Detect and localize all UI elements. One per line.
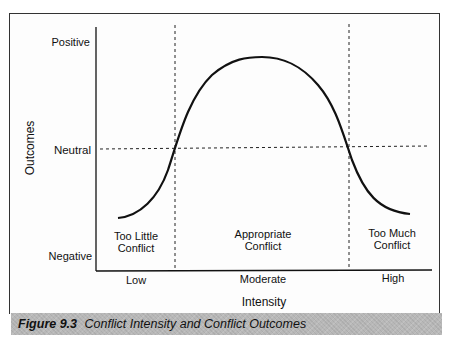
- region-too-little-line1: Too Little: [114, 230, 158, 242]
- y-tick-neutral: Neutral: [54, 144, 91, 156]
- y-axis-label: Outcomes: [23, 121, 37, 176]
- y-tick-positive: Positive: [51, 36, 90, 48]
- region-appropriate-line1: Appropriate: [235, 228, 292, 240]
- outcome-curve: [118, 57, 410, 218]
- x-axis-label: Intensity: [242, 295, 287, 309]
- x-tick-low: Low: [126, 274, 146, 286]
- figure-number: Figure 9.3: [18, 317, 77, 331]
- region-too-much-line1: Too Much: [368, 227, 416, 239]
- figure-title: Conflict Intensity and Conflict Outcomes: [85, 317, 307, 331]
- x-axis: [96, 270, 432, 271]
- figure-caption: Figure 9.3 Conflict Intensity and Confli…: [18, 317, 306, 331]
- x-tick-high: High: [382, 272, 405, 284]
- chart-canvas: Positive Neutral Negative Outcomes Low M…: [0, 0, 453, 340]
- x-tick-moderate: Moderate: [240, 273, 286, 285]
- region-too-much-line2: Conflict: [374, 239, 411, 251]
- neutral-line: [100, 146, 429, 149]
- region-too-little-line2: Conflict: [118, 242, 155, 254]
- y-tick-negative: Negative: [49, 250, 92, 262]
- region-appropriate-line2: Conflict: [245, 240, 282, 252]
